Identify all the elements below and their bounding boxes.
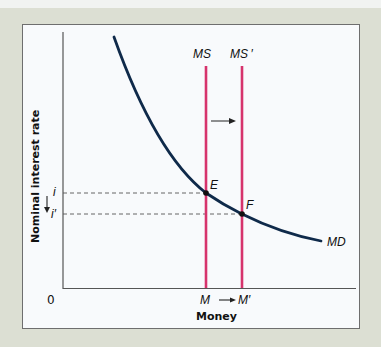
x-axis-title: Money	[196, 310, 237, 323]
ms-prime-label: MS ′	[230, 47, 253, 61]
arrowhead-right-small-icon	[230, 298, 236, 303]
chart-canvas: MS MS ′ MD E F i i′ M M′ 0 Money Nominal…	[0, 0, 381, 347]
md-label: MD	[327, 235, 346, 249]
f-label: F	[246, 198, 254, 212]
ms-label: MS	[193, 47, 211, 61]
e-label: E	[210, 178, 219, 192]
i-prime-tick-label: i′	[51, 207, 57, 221]
m-tick-label: M	[200, 293, 210, 307]
origin-label: 0	[47, 293, 55, 307]
i-tick-label: i	[53, 185, 56, 199]
md-curve	[114, 37, 321, 241]
point-e	[203, 190, 209, 196]
arrowhead-right-icon	[229, 118, 236, 124]
m-prime-tick-label: M′	[238, 293, 251, 307]
arrowhead-down-icon	[44, 207, 50, 213]
point-f	[239, 211, 245, 217]
y-axis-title: Nominal interest rate	[29, 110, 42, 243]
